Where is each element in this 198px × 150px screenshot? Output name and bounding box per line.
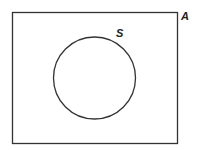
subset-label: S (116, 27, 124, 39)
universal-set-rectangle (13, 13, 178, 144)
venn-diagram: A S (0, 0, 198, 150)
subset-circle (54, 37, 136, 119)
universal-set-label: A (180, 10, 189, 22)
